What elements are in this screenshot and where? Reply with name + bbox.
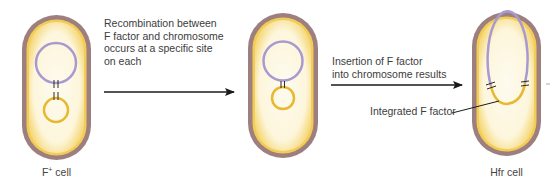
diagram-svg [0,0,559,185]
label-rest: cell [52,166,71,178]
hfr-cell-label: Hfr cell [472,166,541,178]
integrated-f-factor-label: Integrated F factor [370,105,456,118]
step-1-description: Recombination between F factor and chrom… [104,17,224,67]
step-1-line: Recombination between [104,17,224,30]
step-2-description: Insertion of F factor into chromosome re… [332,55,446,80]
hfr-cell [472,11,550,156]
diagram-canvas: Recombination between F factor and chrom… [0,0,559,185]
intermediate-cell [248,13,318,158]
f-plus-cell [22,15,91,160]
step-2-line: into chromosome results [332,68,446,81]
step-1-line: F factor and chromosome [104,30,224,43]
f-plus-cell-label: F+ cell [22,166,91,178]
step-2-line: Insertion of F factor [332,55,446,68]
step-1-line: occurs at a specific site [104,42,224,55]
step-1-line: on each [104,55,224,68]
